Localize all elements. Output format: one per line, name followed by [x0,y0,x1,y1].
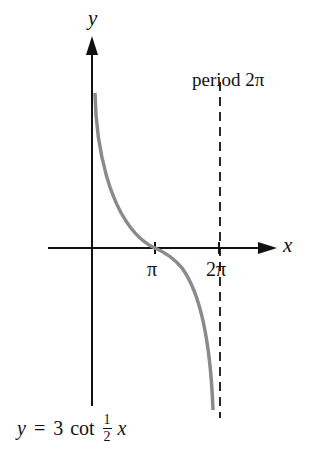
y-axis-label: y [88,6,97,31]
equation-lhs: y [17,417,26,440]
equation-label: y = 3 cot 1 2 x [17,413,127,444]
x-axis-arrow-icon [258,242,277,254]
equation-fraction: 1 2 [103,413,112,444]
equation-func: cot [70,417,94,440]
fraction-denominator: 2 [104,430,111,444]
tick-label-pi: π [147,258,157,281]
fraction-numerator: 1 [104,413,111,427]
y-axis-arrow-icon [86,36,98,55]
tick-label-2pi: 2π [206,258,226,281]
graph-canvas [0,0,319,457]
period-annotation: period 2π [192,69,264,91]
x-axis-label: x [283,233,292,258]
equation-coefficient: 3 [53,417,63,440]
equation-equals: = [34,417,45,440]
equation-var: x [118,417,127,440]
